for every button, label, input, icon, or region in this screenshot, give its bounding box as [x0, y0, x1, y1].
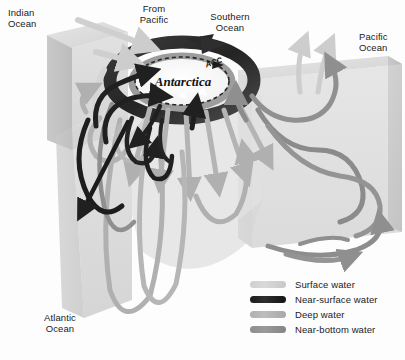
- legend-label-surface-water: Surface water: [295, 279, 355, 290]
- legend-swatch-near-surface-water: [250, 296, 286, 303]
- legend-label-near-bottom-water: Near-bottom water: [295, 324, 375, 335]
- label-from-pacific: FromPacific: [131, 4, 177, 25]
- ocean-circulation-diagram: IndianOcean FromPacific SouthernOcean Pa…: [0, 0, 405, 360]
- label-southern-line2: Ocean: [216, 22, 245, 33]
- legend-swatch-near-bottom-water: [250, 326, 286, 333]
- label-pacific-line1: Pacific: [359, 31, 388, 42]
- legend-item-near-bottom-water: Near-bottom water: [250, 322, 402, 337]
- label-southern-line1: Southern: [210, 11, 249, 22]
- legend-label-near-surface-water: Near-surface water: [295, 294, 378, 305]
- label-indian-line1: Indian: [8, 7, 34, 18]
- label-indian-ocean: IndianOcean: [8, 8, 37, 29]
- legend-swatch-surface-water: [250, 281, 286, 288]
- label-from-pacific-line1: From: [143, 3, 166, 14]
- label-indian-line2: Ocean: [8, 18, 37, 29]
- antarctica-label: Antarctica: [140, 74, 226, 90]
- legend-item-surface-water: Surface water: [250, 277, 402, 292]
- label-atlantic-line2: Ocean: [46, 323, 75, 334]
- legend-label-deep-water: Deep water: [295, 309, 345, 320]
- label-pacific-line2: Ocean: [359, 42, 388, 53]
- legend-swatch-deep-water: [250, 311, 286, 318]
- label-from-pacific-line2: Pacific: [140, 14, 169, 25]
- label-atlantic-line1: Atlantic: [44, 312, 76, 323]
- legend: Surface water Near-surface water Deep wa…: [250, 277, 402, 337]
- label-atlantic-ocean: AtlanticOcean: [36, 313, 84, 334]
- legend-item-deep-water: Deep water: [250, 307, 402, 322]
- label-southern-ocean: SouthernOcean: [204, 12, 256, 33]
- label-pacific-ocean: PacificOcean: [359, 32, 388, 53]
- legend-item-near-surface-water: Near-surface water: [250, 292, 402, 307]
